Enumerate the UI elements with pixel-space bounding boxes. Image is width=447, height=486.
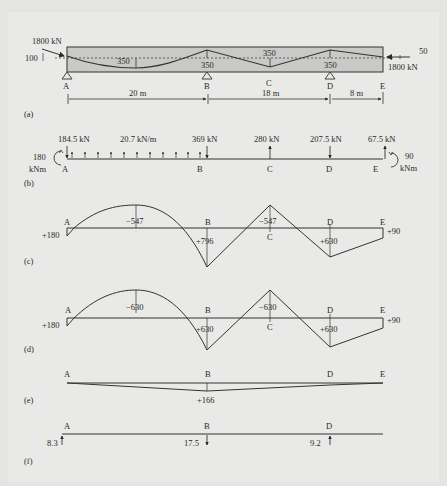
c-value-a: +180 — [42, 230, 60, 240]
panel-d-primary-moment-diagram: A B C D E +180 −630 +630 −630 +630 +90 (… — [24, 290, 400, 354]
b-point-e: E — [373, 164, 378, 174]
panel-a-label: (a) — [24, 109, 34, 119]
prestressed-beam-figure: 350 350 350 350 1800 kN 100 50 1800 kN A… — [0, 0, 447, 486]
c-point-d: D — [327, 217, 333, 227]
d-point-e: E — [380, 305, 385, 315]
moment-e-icon — [391, 153, 398, 167]
reaction-a-value: 8.3 — [47, 438, 58, 448]
d-value-d: +630 — [320, 324, 338, 334]
left-ecc-label: 100 — [25, 53, 38, 63]
point-d-label: D — [327, 81, 333, 91]
c-value-c: −547 — [259, 216, 277, 226]
b-point-c: C — [267, 164, 273, 174]
moment-curve — [67, 383, 383, 391]
load-c-label: 280 kN — [254, 134, 279, 144]
c-point-b: B — [205, 217, 211, 227]
moment-a-icon — [54, 151, 61, 165]
drape-c-label: 350 — [263, 48, 276, 58]
b-point-b: B — [197, 164, 203, 174]
moment-e-unit: kNm — [400, 163, 417, 173]
span-de-label: 8 m — [350, 88, 363, 98]
e-point-d: D — [327, 369, 333, 379]
moment-a-value: 180 — [33, 152, 46, 162]
load-e-label: 67.5 kN — [368, 134, 395, 144]
e-value-b: +166 — [197, 395, 215, 405]
span-ab-label: 20 m — [129, 88, 147, 98]
panel-b-equivalent-loads: 184.5 kN 20.7 kN/m 369 kN 280 kN 207.5 k… — [24, 134, 417, 188]
right-force-label: 1800 kN — [388, 62, 418, 72]
c-point-c: C — [267, 232, 273, 242]
support-a-icon — [62, 72, 72, 79]
e-point-a: A — [64, 369, 71, 379]
d-value-mid-ab: −630 — [126, 302, 144, 312]
drape-d-label: 350 — [324, 60, 337, 70]
support-d-icon — [325, 72, 335, 79]
c-point-a: A — [64, 217, 71, 227]
point-a-label: A — [63, 81, 70, 91]
panel-d-label: (d) — [24, 344, 34, 354]
c-point-e: E — [380, 217, 385, 227]
d-value-a: +180 — [42, 320, 60, 330]
f-point-d: D — [326, 421, 332, 431]
moment-curve — [67, 290, 383, 350]
d-value-c: −630 — [259, 302, 277, 312]
panel-f-secondary-reactions: A B D 8.3 17.5 9.2 (f) — [24, 421, 383, 466]
e-point-b: B — [205, 369, 211, 379]
panel-b-label: (b) — [24, 178, 34, 188]
load-b-label: 369 kN — [192, 134, 217, 144]
panel-a-beam-elevation: 350 350 350 350 1800 kN 100 50 1800 kN A… — [24, 36, 428, 119]
d-point-a: A — [65, 305, 72, 315]
d-value-b: +630 — [196, 324, 214, 334]
left-force-label: 1800 kN — [32, 36, 62, 46]
c-value-d: +630 — [320, 236, 338, 246]
point-c-label: C — [266, 78, 272, 88]
panel-c-total-moment-diagram: A B C D E +180 −547 +796 −547 +630 +90 (… — [24, 205, 400, 267]
span-bd-label: 18 m — [262, 88, 280, 98]
support-b-icon — [202, 72, 212, 79]
left-prestress-arrow-icon — [42, 49, 64, 56]
c-value-e: +90 — [387, 226, 400, 236]
load-a-label: 184.5 kN — [58, 134, 90, 144]
drape-ab-label: 350 — [117, 56, 130, 66]
e-point-e: E — [380, 369, 385, 379]
point-e-label: E — [380, 81, 385, 91]
c-value-mid-ab: −547 — [126, 216, 144, 226]
drape-b-label: 350 — [201, 60, 214, 70]
panel-c-label: (c) — [24, 256, 34, 266]
reaction-d-value: 9.2 — [310, 438, 321, 448]
b-point-d: D — [326, 164, 332, 174]
d-value-e: +90 — [387, 315, 400, 325]
c-value-b: +796 — [196, 236, 214, 246]
panel-e-secondary-moment-diagram: A B D E +166 (e) — [24, 369, 385, 405]
udl-arrows-icon — [72, 152, 200, 158]
right-ecc-label: 50 — [419, 46, 428, 56]
udl-label: 20.7 kN/m — [120, 134, 157, 144]
f-point-b: B — [204, 421, 210, 431]
panel-f-label: (f) — [24, 456, 33, 466]
f-point-a: A — [64, 421, 71, 431]
reaction-b-value: 17.5 — [184, 438, 199, 448]
moment-a-unit: kNm — [29, 164, 46, 174]
load-d-label: 207.5 kN — [310, 134, 342, 144]
d-point-c: C — [267, 322, 273, 332]
point-b-label: B — [204, 81, 210, 91]
d-point-b: B — [205, 305, 211, 315]
panel-e-label: (e) — [24, 395, 34, 405]
b-point-a: A — [62, 164, 69, 174]
moment-e-value: 90 — [405, 151, 414, 161]
d-point-d: D — [327, 305, 333, 315]
